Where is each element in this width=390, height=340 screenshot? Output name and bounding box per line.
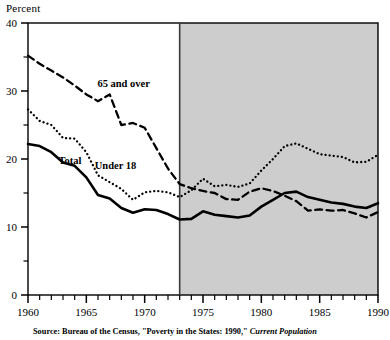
poverty-rate-line-chart: Percent 010203040 1960196519701975198019… xyxy=(0,0,390,340)
source-note-prefix: Source: Bureau of the Census, "Poverty i… xyxy=(33,327,250,336)
plot-canvas: 010203040 1960196519701975198019851990 6… xyxy=(0,0,390,325)
svg-text:20: 20 xyxy=(6,153,18,165)
svg-text:1970: 1970 xyxy=(134,306,157,318)
y-axis-tick-labels: 010203040 xyxy=(6,17,18,301)
svg-text:65 and over: 65 and over xyxy=(97,78,150,89)
svg-text:10: 10 xyxy=(6,221,18,233)
svg-text:1980: 1980 xyxy=(250,306,273,318)
svg-text:1985: 1985 xyxy=(309,306,332,318)
svg-text:30: 30 xyxy=(6,85,18,97)
svg-text:1960: 1960 xyxy=(17,306,40,318)
x-axis-tick-labels: 1960196519701975198019851990 xyxy=(17,306,390,318)
svg-text:1990: 1990 xyxy=(367,306,390,318)
svg-text:Under 18: Under 18 xyxy=(95,160,137,171)
svg-text:1975: 1975 xyxy=(192,306,215,318)
shaded-region xyxy=(180,23,378,295)
svg-text:40: 40 xyxy=(6,17,18,29)
svg-text:Total: Total xyxy=(59,155,82,166)
svg-text:0: 0 xyxy=(12,289,18,301)
source-note-italic: Current Population xyxy=(250,327,317,336)
svg-text:1965: 1965 xyxy=(75,306,98,318)
source-note: Source: Bureau of the Census, "Poverty i… xyxy=(33,327,390,336)
